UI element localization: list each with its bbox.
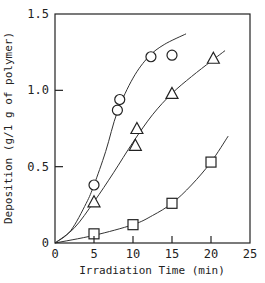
y-tick-label: 0.5 bbox=[27, 160, 49, 174]
chart: 0510152025 00.51.01.5 Irradiation Time (… bbox=[0, 0, 265, 283]
y-axis-ticks: 00.51.01.5 bbox=[27, 7, 63, 250]
y-tick-label: 1.5 bbox=[27, 7, 49, 21]
y-tick-label: 1.0 bbox=[27, 83, 49, 97]
circle-marker bbox=[115, 94, 125, 104]
circle-marker bbox=[112, 105, 122, 115]
square-marker bbox=[128, 220, 138, 230]
x-tick-label: 10 bbox=[126, 247, 140, 261]
triangle-marker bbox=[88, 196, 100, 207]
x-tick-label: 15 bbox=[165, 247, 179, 261]
square-series-curve bbox=[55, 136, 228, 243]
axes bbox=[55, 14, 250, 243]
y-tick-label: 0 bbox=[42, 236, 49, 250]
square-marker bbox=[167, 198, 177, 208]
x-axis-label: Irradiation Time (min) bbox=[79, 264, 225, 277]
circle-marker bbox=[167, 50, 177, 60]
circle-series-curve bbox=[55, 34, 186, 243]
plot-area bbox=[55, 34, 228, 243]
x-tick-label: 0 bbox=[51, 247, 58, 261]
circle-marker bbox=[89, 180, 99, 190]
circle-marker bbox=[146, 52, 156, 62]
x-tick-label: 5 bbox=[90, 247, 97, 261]
triangle-marker bbox=[131, 123, 143, 134]
x-tick-label: 20 bbox=[204, 247, 218, 261]
square-marker bbox=[206, 157, 216, 167]
triangle-marker bbox=[207, 52, 219, 63]
x-axis-ticks: 0510152025 bbox=[51, 236, 257, 261]
plot-frame bbox=[55, 14, 250, 243]
y-axis-label: Deposition (g/1 g of polymer) bbox=[2, 32, 15, 224]
x-tick-label: 25 bbox=[243, 247, 257, 261]
